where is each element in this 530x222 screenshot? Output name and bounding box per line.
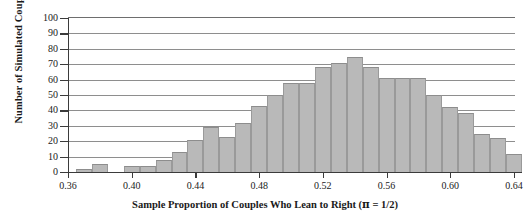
histogram-bar [92,164,108,172]
histogram-bar [331,63,347,172]
x-axis-tick-label: 0.64 [494,180,530,191]
x-axis-tick [450,172,451,178]
histogram-bar [299,83,315,172]
histogram-bar [363,67,379,172]
y-axis-title: Number of Simulated Couples [13,0,24,135]
histogram-bar [156,160,172,172]
histogram-bar [347,57,363,173]
x-axis-line [60,172,522,173]
x-axis-tick [259,172,260,178]
x-axis-tick-label: 0.56 [367,180,407,191]
histogram-bar [76,169,92,172]
y-axis-tick-label: 70 [48,59,58,69]
x-axis-tick-label: 0.44 [175,180,215,191]
y-axis-tick-label: 80 [48,44,58,54]
histogram-bar [172,152,188,172]
x-axis-tick [132,172,133,178]
y-axis-tick-label: 20 [48,136,58,146]
y-axis-tick-label: 10 [48,152,58,162]
x-axis-tick-label: 0.60 [430,180,470,191]
histogram-bar [203,127,219,172]
histogram-bar [283,83,299,172]
histogram-bar [426,95,442,172]
x-axis-title-prefix: Sample Proportion of Couples Who Lean to… [132,199,362,210]
histogram-bar [458,113,474,172]
x-axis-tick-label: 0.48 [239,180,279,191]
y-axis-tick-label: 100 [43,13,58,23]
histogram-bar [442,107,458,172]
y-axis-tick [60,141,68,142]
histogram-bar [187,140,203,172]
histogram-bar [506,154,522,172]
y-axis-tick-label: 0 [53,167,58,177]
y-axis-tick [60,64,68,65]
y-axis-tick [60,110,68,111]
x-axis-title: Sample Proportion of Couples Who Lean to… [0,198,530,210]
histogram-bar [251,106,267,172]
x-axis-tick [323,172,324,178]
histogram-bar [219,137,235,172]
y-axis-tick-label: 50 [48,90,58,100]
x-axis-tick-label: 0.40 [112,180,152,191]
x-axis-tick [68,172,69,178]
x-axis-tick [195,172,196,178]
histogram-bar [410,78,426,172]
x-axis-tick [387,172,388,178]
y-axis-tick [60,80,68,81]
histogram-bar [490,138,506,172]
histogram-bar [395,78,411,172]
y-axis-tick-label: 30 [48,121,58,131]
histogram-bar [267,95,283,172]
histogram-figure: Number of Simulated Couples 010203040506… [0,0,530,222]
y-axis-tick [60,126,68,127]
y-axis-tick [60,33,68,34]
histogram-bar [379,78,395,172]
x-axis-tick [514,172,515,178]
y-axis-tick-label: 40 [48,105,58,115]
x-axis-title-suffix: = 1/2) [370,199,398,210]
histogram-bars [68,18,514,172]
y-axis-tick-label: 90 [48,28,58,38]
histogram-bar [474,134,490,173]
y-axis-tick [60,49,68,50]
pi-symbol: π [362,198,370,210]
y-axis-tick-label: 60 [48,75,58,85]
histogram-bar [235,123,251,172]
x-axis-tick-label: 0.36 [48,180,88,191]
histogram-bar [315,67,331,172]
x-axis-tick-label: 0.52 [303,180,343,191]
y-axis-tick [60,95,68,96]
y-axis-tick [60,18,68,19]
y-axis-tick [60,157,68,158]
histogram-bar [140,166,156,172]
